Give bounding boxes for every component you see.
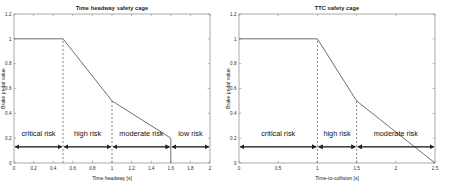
y-tick-label: 0.4 [5, 111, 12, 116]
x-tick-label: 0.4 [50, 166, 57, 171]
region-label: high risk [323, 129, 351, 138]
y-tick-label: 0 [234, 161, 237, 166]
x-tick-label: 0.5 [275, 166, 282, 171]
chart-title: TTC safety cage [315, 5, 359, 11]
chart-panel-ttc: 00.511.522.500.20.40.60.811.2TTC safety … [225, 0, 449, 196]
y-tick-label: 0.2 [230, 136, 237, 141]
x-tick-label: 1.2 [128, 166, 135, 171]
chart-title: Time headway safety cage [76, 5, 149, 11]
region-label: moderate risk [374, 129, 419, 138]
region-label: critical risk [21, 129, 55, 138]
x-tick-label: 1.6 [168, 166, 175, 171]
x-tick-label: 1.4 [148, 166, 155, 171]
y-tick-label: 0.6 [230, 86, 237, 91]
y-tick-label: 1 [9, 37, 12, 42]
y-tick-label: 0 [9, 161, 12, 166]
y-axis-label: Brake pedal value [0, 68, 6, 109]
y-tick-label: 1.2 [5, 12, 12, 17]
region-label: low risk [178, 129, 203, 138]
x-tick-label: 2.5 [432, 166, 439, 171]
y-axis-label: Brake pedal value [225, 68, 231, 109]
x-tick-label: 2 [209, 166, 212, 171]
y-tick-label: 1.2 [230, 12, 237, 17]
x-tick-label: 0.8 [89, 166, 96, 171]
x-tick-label: 2 [395, 166, 398, 171]
y-tick-label: 0.6 [5, 86, 12, 91]
chart-svg-ttc-safety-cage: 00.511.522.500.20.40.60.811.2TTC safety … [225, 0, 449, 196]
x-tick-label: 1.8 [187, 166, 194, 171]
x-tick-label: 0.2 [30, 166, 37, 171]
region-label: critical risk [261, 129, 295, 138]
plot-frame [239, 14, 435, 163]
figure-root: 00.20.40.60.811.21.41.61.8200.20.40.60.8… [0, 0, 449, 196]
region-label: high risk [74, 129, 102, 138]
plot-frame [14, 14, 210, 163]
brake-pedal-curve [14, 39, 171, 163]
x-tick-label: 0 [238, 166, 241, 171]
x-axis-label: Time headway [s] [92, 175, 132, 181]
chart-ttc-safety-cage: 00.511.522.500.20.40.60.811.2TTC safety … [225, 0, 449, 196]
chart-time-headway-safety-cage: 00.20.40.60.811.21.41.61.8200.20.40.60.8… [0, 0, 224, 196]
x-tick-label: 1.5 [353, 166, 360, 171]
x-tick-label: 1 [111, 166, 114, 171]
x-tick-label: 0.6 [70, 166, 77, 171]
x-tick-label: 0 [13, 166, 16, 171]
y-tick-label: 0.8 [230, 61, 237, 66]
x-axis-label: Time-to-collision [s] [315, 175, 359, 181]
chart-panel-time-headway: 00.20.40.60.811.21.41.61.8200.20.40.60.8… [0, 0, 224, 196]
y-tick-label: 0.2 [5, 136, 12, 141]
brake-pedal-curve [239, 39, 435, 163]
y-tick-label: 0.8 [5, 61, 12, 66]
chart-svg-time-headway-safety-cage: 00.20.40.60.811.21.41.61.8200.20.40.60.8… [0, 0, 224, 196]
y-tick-label: 1 [234, 37, 237, 42]
region-label: moderate risk [119, 129, 164, 138]
y-tick-label: 0.4 [230, 111, 237, 116]
x-tick-label: 1 [316, 166, 319, 171]
